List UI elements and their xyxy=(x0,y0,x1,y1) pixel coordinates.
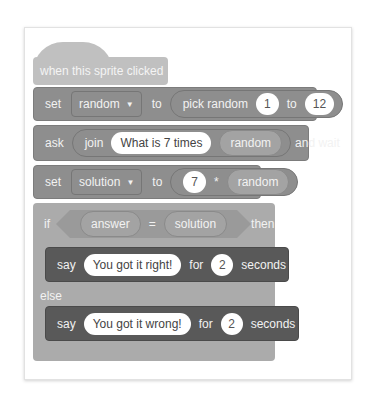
multiply-left-input[interactable]: 7 xyxy=(183,171,206,193)
if-label: if xyxy=(44,217,50,231)
variable-dropdown-solution[interactable]: solution ▼ xyxy=(71,169,142,195)
say-label: say xyxy=(57,258,76,272)
join-reporter[interactable]: join What is 7 times random xyxy=(72,129,291,157)
pick-random-reporter[interactable]: pick random 1 to 12 xyxy=(170,90,343,118)
random-variable-reporter[interactable]: random xyxy=(219,130,282,156)
ask-label: ask xyxy=(45,136,64,150)
to-label: to xyxy=(152,97,162,111)
say-seconds-input[interactable]: 2 xyxy=(211,254,233,276)
variable-name: random xyxy=(79,97,120,111)
seconds-label: seconds xyxy=(241,258,286,272)
then-label: then xyxy=(251,217,274,231)
solution-variable-reporter[interactable]: solution xyxy=(164,211,227,237)
for-label: for xyxy=(189,258,203,272)
random-from-input[interactable]: 1 xyxy=(256,93,279,115)
else-label: else xyxy=(40,289,62,303)
say-wrong-block[interactable]: say You got it wrong! for 2 seconds xyxy=(45,306,299,341)
say-label: say xyxy=(57,317,76,331)
say-seconds-input[interactable]: 2 xyxy=(221,313,243,335)
join-label: join xyxy=(85,136,104,150)
answer-reporter[interactable]: answer xyxy=(80,211,141,237)
set-label: set xyxy=(45,97,61,111)
to-label: to xyxy=(287,97,297,111)
say-message-input[interactable]: You got it wrong! xyxy=(84,313,191,335)
multiply-operator: * xyxy=(214,175,219,189)
pick-random-label: pick random xyxy=(183,97,248,111)
equals-condition[interactable]: answer = solution xyxy=(70,210,237,238)
join-text-input[interactable]: What is 7 times xyxy=(111,132,211,154)
chevron-down-icon: ▼ xyxy=(126,178,134,187)
if-row: if answer = solution then xyxy=(40,207,278,241)
set-random-block[interactable]: set random ▼ to pick random 1 to 12 xyxy=(33,87,317,121)
random-to-input[interactable]: 12 xyxy=(305,93,334,115)
set-label: set xyxy=(45,175,61,189)
say-message-input[interactable]: You got it right! xyxy=(84,254,182,276)
seconds-label: seconds xyxy=(251,317,296,331)
hat-label: when this sprite clicked xyxy=(40,64,163,78)
chevron-down-icon: ▼ xyxy=(126,100,134,109)
say-right-block[interactable]: say You got it right! for 2 seconds xyxy=(45,247,289,282)
random-variable-reporter[interactable]: random xyxy=(227,169,290,195)
and-wait-label: and wait xyxy=(295,136,340,150)
variable-name: solution xyxy=(79,175,120,189)
equals-operator: = xyxy=(149,217,156,231)
variable-dropdown-random[interactable]: random ▼ xyxy=(71,91,142,117)
set-solution-block[interactable]: set solution ▼ to 7 * random xyxy=(33,165,261,199)
multiply-reporter[interactable]: 7 * random xyxy=(170,168,298,196)
when-sprite-clicked-block[interactable]: when this sprite clicked xyxy=(33,57,168,85)
for-label: for xyxy=(199,317,213,331)
to-label: to xyxy=(152,175,162,189)
ask-and-wait-block[interactable]: ask join What is 7 times random and wait xyxy=(33,125,309,161)
